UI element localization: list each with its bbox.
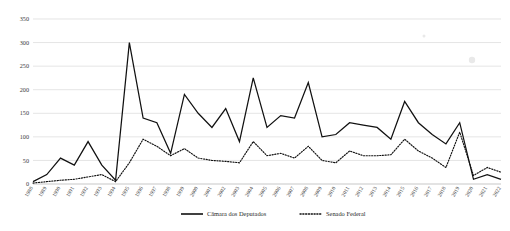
legend-label-2: Senado Federal [326, 210, 366, 217]
y-axis-tick-label: 350 [20, 15, 29, 22]
line-chart: 050100150200250300350 198819891990199119… [0, 0, 510, 231]
legend-label-1: Câmara dos Deputados [207, 210, 267, 217]
chart-container: 050100150200250300350 198819891990199119… [0, 0, 510, 231]
y-axis-tick-label: 50 [23, 157, 29, 164]
y-axis-tick-label: 300 [20, 39, 29, 46]
y-axis-tick-label: 100 [20, 133, 29, 140]
y-axis-tick-label: 150 [20, 109, 29, 116]
y-axis-tick-label: 250 [20, 62, 29, 69]
chart-background [0, 0, 510, 231]
y-axis-tick-label: 200 [20, 86, 29, 93]
